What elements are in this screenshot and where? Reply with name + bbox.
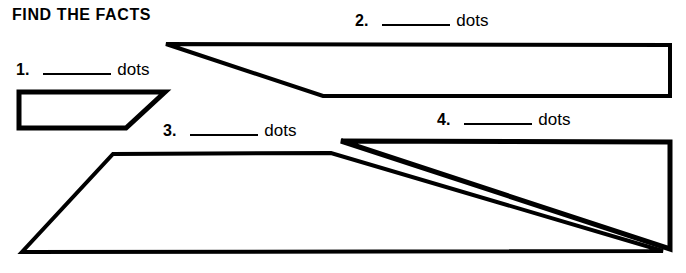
figure-group xyxy=(0,0,686,273)
figure-2-quadrilateral xyxy=(166,44,670,96)
figure-4-triangle xyxy=(341,141,670,249)
figure-1-trapezoid xyxy=(19,92,165,128)
figure-3-trapezoid xyxy=(22,153,663,252)
worksheet-page: FIND THE FACTS 1.dots 2.dots 3.dots 4.do… xyxy=(0,0,686,273)
